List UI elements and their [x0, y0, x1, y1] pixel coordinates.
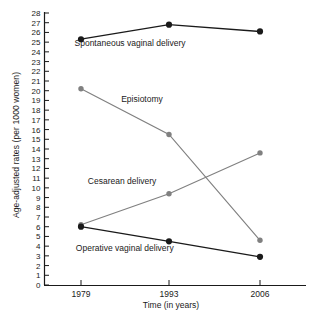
y-tick-label: 25: [32, 38, 41, 47]
y-tick-label: 2: [36, 262, 41, 271]
y-tick-label: 21: [32, 77, 41, 86]
y-tick-label: 14: [32, 145, 41, 154]
y-axis-ticks: 0123456789101112131415161718192021222324…: [32, 9, 49, 290]
y-tick-label: 26: [32, 28, 41, 37]
y-tick-label: 13: [32, 155, 41, 164]
plot-area: 0123456789101112131415161718192021222324…: [0, 0, 309, 319]
series-line: [81, 153, 260, 225]
y-tick-label: 15: [32, 135, 41, 144]
y-tick-label: 6: [36, 223, 41, 232]
data-point: [257, 28, 263, 34]
data-point: [257, 254, 263, 260]
series-lines: [81, 25, 260, 257]
chart-figure: Age-adjusted rates (per 1000 women) 0123…: [0, 0, 309, 319]
y-tick-label: 23: [32, 58, 41, 67]
x-tick-label: 1993: [160, 289, 179, 299]
series-markers: [78, 22, 263, 260]
y-tick-label: 27: [32, 19, 41, 28]
y-tick-label: 4: [36, 242, 41, 251]
y-tick-label: 10: [32, 184, 41, 193]
y-tick-label: 0: [36, 281, 41, 290]
y-tick-label: 8: [36, 203, 41, 212]
x-tick-label: 1979: [72, 289, 91, 299]
x-axis-title: Time (in years): [40, 300, 302, 310]
data-point: [166, 191, 171, 196]
series-label: Episiotomy: [121, 94, 163, 104]
y-tick-label: 11: [32, 174, 41, 183]
y-tick-label: 5: [36, 232, 41, 241]
y-tick-label: 18: [32, 106, 41, 115]
y-tick-label: 24: [32, 48, 41, 57]
data-point: [257, 238, 262, 243]
series-label: Cesarean delivery: [88, 176, 157, 186]
y-tick-label: 28: [32, 9, 41, 18]
data-point: [166, 22, 172, 28]
y-tick-label: 20: [32, 87, 41, 96]
y-tick-label: 22: [32, 67, 41, 76]
y-tick-label: 7: [36, 213, 41, 222]
series-label: Spontaneous vaginal delivery: [75, 38, 187, 48]
x-tick-label: 2006: [251, 289, 270, 299]
y-tick-label: 12: [32, 164, 41, 173]
y-tick-label: 1: [36, 271, 41, 280]
y-tick-label: 19: [32, 96, 41, 105]
y-tick-label: 9: [36, 194, 41, 203]
data-point: [166, 132, 171, 137]
series-label: Operative vaginal delivery: [76, 243, 175, 253]
y-tick-label: 16: [32, 126, 41, 135]
y-tick-label: 17: [32, 116, 41, 125]
y-tick-label: 3: [36, 252, 41, 261]
x-axis-ticks: 197919932006: [72, 280, 270, 299]
data-point: [257, 150, 262, 155]
data-point: [78, 224, 84, 230]
data-point: [78, 86, 83, 91]
